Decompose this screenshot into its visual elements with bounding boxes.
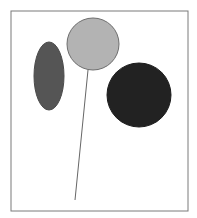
balloon-string-line bbox=[75, 70, 88, 200]
diagram-canvas bbox=[0, 0, 197, 218]
light-gray-circle bbox=[67, 18, 119, 70]
dark-gray-ellipse bbox=[34, 42, 64, 110]
black-circle bbox=[107, 63, 171, 127]
